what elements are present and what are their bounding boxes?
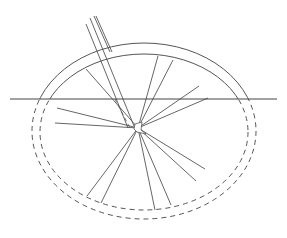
outer-rim-solid xyxy=(32,43,256,219)
spoke xyxy=(55,123,138,128)
spoke xyxy=(138,56,158,128)
spoke xyxy=(138,128,171,205)
spoke xyxy=(138,60,173,128)
diagram-svg xyxy=(0,0,287,238)
spoke xyxy=(138,128,196,181)
spoke xyxy=(138,128,155,210)
spoke xyxy=(101,128,138,203)
spoke xyxy=(138,128,205,169)
spoke xyxy=(87,128,138,196)
wheel-diagram xyxy=(0,0,287,238)
spoke xyxy=(138,98,208,128)
spoke xyxy=(138,86,199,128)
rod xyxy=(86,16,134,128)
spoke xyxy=(57,108,138,128)
spokes xyxy=(55,56,208,210)
rod-line xyxy=(90,18,134,126)
outer-rim-dashed xyxy=(32,43,256,219)
rod-line xyxy=(96,16,112,52)
